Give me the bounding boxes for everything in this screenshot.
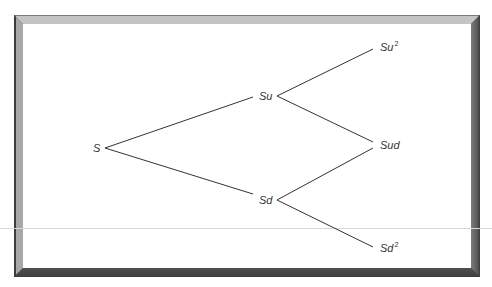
edge-s-sd (105, 148, 253, 194)
node-s-label: S (93, 142, 100, 154)
node-sud: Sud (380, 140, 400, 151)
edge-su-su2 (277, 49, 373, 96)
node-su: Su (259, 91, 272, 102)
node-sd2-label: Sd (380, 242, 393, 254)
node-sd2: Sd2 (380, 243, 398, 254)
node-sud-label: Sud (380, 139, 400, 151)
node-sd2-exponent: 2 (394, 241, 398, 248)
edge-su-sud (277, 96, 373, 142)
node-sd: Sd (259, 195, 272, 206)
edge-sd-sud (277, 148, 373, 200)
node-su2-label: Su (380, 41, 393, 53)
node-su-label: Su (259, 90, 272, 102)
edge-s-su (105, 97, 253, 148)
node-su2: Su2 (380, 42, 398, 53)
tree-edges (0, 0, 492, 287)
node-su2-exponent: 2 (394, 40, 398, 47)
node-sd-label: Sd (259, 194, 272, 206)
node-s: S (93, 143, 100, 154)
edge-sd-sd2 (277, 200, 373, 247)
